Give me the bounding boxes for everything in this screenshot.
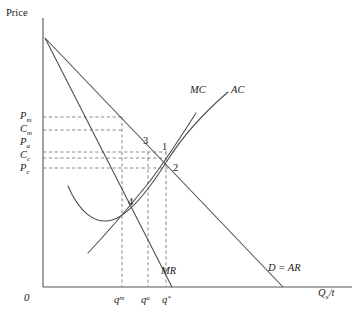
axes xyxy=(43,18,352,287)
point-label-4: 4 xyxy=(128,197,133,208)
tick-label-cc: Cc xyxy=(20,150,30,161)
demand-curve-label: D = AR xyxy=(268,263,301,274)
x-axis-title-sub: x xyxy=(326,293,329,301)
average-cost-curve xyxy=(68,92,228,221)
tick-label-cm: Cm xyxy=(20,124,32,135)
tick-cm-sub: m xyxy=(27,129,32,137)
tick-qa-sup: a xyxy=(146,294,150,302)
tick-label-qa: qa xyxy=(141,295,150,306)
tick-pm-sub: m xyxy=(26,116,31,124)
mc-curve-label: MC xyxy=(190,85,206,96)
ac-curve-label: AC xyxy=(231,85,244,96)
tick-cc-sub: c xyxy=(27,155,30,163)
tick-cm-base: C xyxy=(20,123,27,134)
x-axis-title-tail: /t xyxy=(329,287,335,298)
tick-label-qm: qm xyxy=(114,295,124,306)
tick-pc-sub: c xyxy=(26,168,29,176)
y-axis-title: Price xyxy=(6,8,28,19)
tick-qm-sup: m xyxy=(119,294,124,302)
mr-curve-label: MR xyxy=(161,266,176,277)
tick-qstar-sup: * xyxy=(167,294,171,302)
x-axis-title-base: Q xyxy=(318,287,326,298)
marginal-revenue-curve xyxy=(45,38,172,287)
point-label-2: 2 xyxy=(173,163,178,174)
price-guide-lines xyxy=(43,117,168,168)
point-label-3: 3 xyxy=(143,136,148,147)
tick-label-pa: Pa xyxy=(20,137,30,148)
plot-canvas xyxy=(0,0,360,317)
economics-diagram: Price Qx/t 0 Pm Cm Pa Cc Pc qm qa q* MC … xyxy=(0,0,360,317)
marginal-cost-curve xyxy=(88,113,196,253)
tick-label-qstar: q* xyxy=(162,295,171,306)
origin-label: 0 xyxy=(24,292,30,303)
tick-cc-base: C xyxy=(20,149,27,160)
tick-label-pm: Pm xyxy=(20,111,31,122)
tick-label-pc: Pc xyxy=(20,163,30,174)
x-axis-title: Qx/t xyxy=(318,288,335,299)
point-label-1: 1 xyxy=(162,142,167,153)
